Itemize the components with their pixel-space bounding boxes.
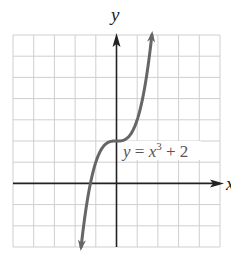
y-axis-label: y bbox=[109, 4, 120, 25]
cubic-function-graph: y x y = x3 + 2 bbox=[0, 0, 231, 254]
x-axis-label: x bbox=[225, 173, 231, 194]
equation-label: y = x3 + 2 bbox=[121, 140, 188, 161]
